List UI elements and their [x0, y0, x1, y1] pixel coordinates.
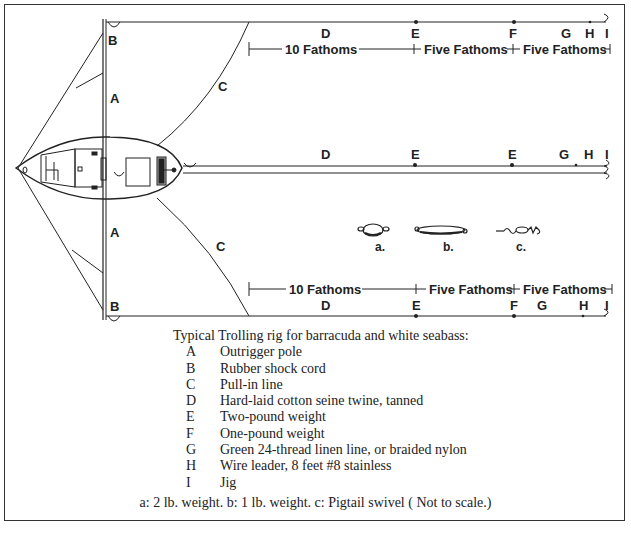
label-shock-cord-top: B — [108, 33, 117, 48]
bottom-point-f: F — [510, 298, 518, 313]
bottom-span-five-fathoms-2: Five Fathoms — [523, 282, 607, 297]
top-point-d: D — [321, 26, 330, 41]
legend-item: CPull-in line — [172, 377, 469, 393]
legend-key: A — [172, 344, 220, 360]
legend-text: Hard-laid cotton seine twine, tanned — [220, 393, 423, 409]
label-outrigger-bottom: A — [110, 225, 120, 240]
label-shock-cord-bottom: B — [110, 299, 119, 314]
legend-item: IJig — [172, 475, 469, 491]
legend-text: One-pound weight — [220, 426, 325, 442]
middle-point-g: G — [559, 147, 569, 162]
weight-label-c: c. — [516, 240, 526, 254]
legend-text: Wire leader, 8 feet #8 stainless — [220, 458, 391, 474]
bottom-point-e: E — [412, 298, 421, 313]
legend-key: H — [172, 458, 220, 474]
top-span-five-fathoms-1: Five Fathoms — [424, 42, 508, 57]
legend-item: BRubber shock cord — [172, 361, 469, 377]
top-span-10-fathoms: 10 Fathoms — [285, 42, 357, 57]
legend-key: E — [172, 409, 220, 425]
bottom-point-h: H — [579, 298, 588, 313]
legend-text: Rubber shock cord — [220, 361, 326, 377]
weight-label-b: b. — [443, 240, 454, 254]
legend-text: Jig — [220, 475, 236, 491]
legend-key: G — [172, 442, 220, 458]
bottom-span-five-fathoms-1: Five Fathoms — [429, 282, 513, 297]
legend-item: ETwo-pound weight — [172, 409, 469, 425]
legend-key: D — [172, 393, 220, 409]
middle-point-e2: E — [508, 147, 517, 162]
bottom-point-i: I — [605, 298, 609, 313]
middle-point-i: I — [605, 147, 609, 162]
label-pullin-bottom: C — [216, 239, 226, 254]
footnote: a: 2 lb. weight. b: 1 lb. weight. c: Pig… — [0, 495, 631, 511]
legend: Typical Trolling rig for barracuda and w… — [172, 328, 469, 491]
label-pullin-top: C — [218, 79, 228, 94]
legend-item: HWire leader, 8 feet #8 stainless — [172, 458, 469, 474]
top-point-g: G — [561, 26, 571, 41]
legend-key: B — [172, 361, 220, 377]
legend-text: Two-pound weight — [220, 409, 326, 425]
two-pound-weight-icon — [358, 224, 389, 236]
legend-key: I — [172, 475, 220, 491]
middle-point-h: H — [584, 147, 593, 162]
legend-text: Green 24-thread linen line, or braided n… — [220, 442, 467, 458]
label-outrigger-top: A — [110, 91, 120, 106]
top-span-five-fathoms-2: Five Fathoms — [523, 42, 607, 57]
middle-point-e1: E — [411, 147, 420, 162]
legend-title: Typical Trolling rig for barracuda and w… — [173, 328, 469, 344]
bottom-point-d: D — [321, 298, 330, 313]
legend-key: C — [172, 377, 220, 393]
top-point-f: F — [509, 26, 517, 41]
legend-key: F — [172, 426, 220, 442]
weight-label-a: a. — [375, 240, 385, 254]
legend-item: AOutrigger pole — [172, 344, 469, 360]
bottom-span-10-fathoms: 10 Fathoms — [289, 282, 361, 297]
legend-item: GGreen 24-thread linen line, or braided … — [172, 442, 469, 458]
pull-in-line-top — [157, 22, 249, 146]
top-point-i: I — [605, 26, 609, 41]
legend-item: DHard-laid cotton seine twine, tanned — [172, 393, 469, 409]
top-point-e: E — [411, 26, 420, 41]
legend-text: Pull-in line — [220, 377, 283, 393]
bottom-point-g: G — [537, 298, 547, 313]
legend-text: Outrigger pole — [220, 344, 302, 360]
pigtail-swivel-icon — [496, 227, 540, 234]
middle-point-d: D — [321, 147, 330, 162]
one-pound-weight-icon — [415, 226, 467, 234]
top-point-h: H — [585, 26, 594, 41]
pull-in-line-bottom — [157, 198, 249, 316]
legend-item: FOne-pound weight — [172, 426, 469, 442]
